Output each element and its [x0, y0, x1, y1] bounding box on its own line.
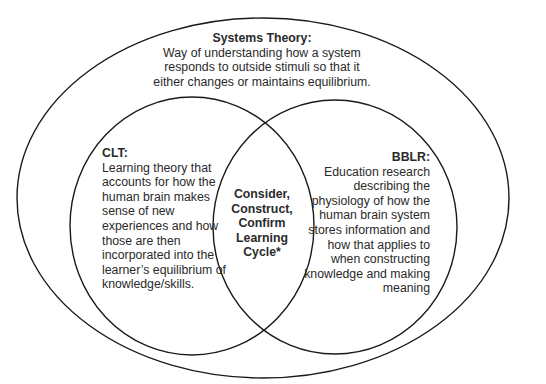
systems-theory-line: either changes or maintains equilibrium.: [112, 75, 412, 90]
clt-line: learner’s equilibrium of: [102, 263, 226, 278]
clt-line: those are then: [102, 234, 226, 249]
clt-label: CLT: Learning theory that accounts for h…: [102, 146, 226, 292]
intersection-label: Consider, Construct, Confirm Learning Cy…: [212, 187, 312, 260]
systems-theory-title: Systems Theory:: [112, 31, 412, 46]
intersection-line: Learning: [212, 231, 312, 246]
bblr-label: BBLR: Education research describing the …: [304, 150, 430, 296]
bblr-line: knowledge and making: [304, 267, 430, 282]
bblr-line: when constructing: [304, 252, 430, 267]
systems-theory-label: Systems Theory: Way of understanding how…: [112, 31, 412, 89]
clt-line: knowledge/skills.: [102, 277, 226, 292]
clt-line: incorporated into the: [102, 248, 226, 263]
clt-line: accounts for how the: [102, 175, 226, 190]
intersection-line: Cycle*: [212, 245, 312, 260]
clt-line: human brain makes: [102, 190, 226, 205]
bblr-line: meaning: [304, 281, 430, 296]
intersection-line: Construct,: [212, 202, 312, 217]
intersection-line: Confirm: [212, 216, 312, 231]
systems-theory-line: responds to outside stimuli so that it: [112, 60, 412, 75]
clt-line: sense of new: [102, 204, 226, 219]
clt-line: Learning theory that: [102, 161, 226, 176]
intersection-line: Consider,: [212, 187, 312, 202]
bblr-title: BBLR:: [304, 150, 430, 165]
bblr-line: human brain system: [304, 208, 430, 223]
clt-title: CLT:: [102, 146, 226, 161]
bblr-line: how that applies to: [304, 238, 430, 253]
bblr-line: stores information and: [304, 223, 430, 238]
bblr-line: physiology of how the: [304, 194, 430, 209]
bblr-line: Education research: [304, 165, 430, 180]
clt-line: experiences and how: [102, 219, 226, 234]
systems-theory-line: Way of understanding how a system: [112, 46, 412, 61]
bblr-line: describing the: [304, 179, 430, 194]
